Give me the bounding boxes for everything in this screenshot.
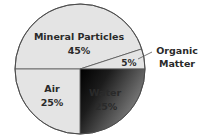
label-water-pct: 25% (95, 101, 118, 112)
label-organic-name-line2: Matter (159, 58, 195, 69)
label-mineral-name: Mineral Particles (34, 31, 125, 42)
label-mineral-pct: 45% (68, 45, 91, 56)
label-water-name: Water (89, 87, 122, 98)
label-organic-pct: 5% (121, 58, 136, 68)
label-air-pct: 25% (41, 97, 64, 108)
label-air-name: Air (44, 83, 60, 94)
label-organic-name-line1: Organic (156, 45, 198, 56)
soil-composition-pie-chart: Mineral Particles 45% 5% Organic Matter … (0, 0, 208, 140)
